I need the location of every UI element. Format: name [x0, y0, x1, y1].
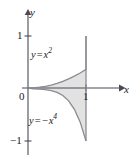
lower-curve-label-equals: =: [34, 115, 42, 126]
figure-container: y x 1 −1 0 1 y=x2 y=−x4: [0, 0, 134, 166]
upper-curve-label: y=x2: [31, 47, 52, 60]
lower-curve-label-base: −x: [42, 115, 54, 126]
upper-curve-label-lhs: y: [31, 49, 36, 60]
y-tick-label-negative-1: −1: [10, 135, 22, 146]
lower-curve-label: y=−x4: [29, 113, 57, 126]
y-axis-label: y: [30, 7, 35, 18]
x-tick-label-1: 1: [83, 91, 89, 102]
origin-label: 0: [19, 91, 25, 102]
y-tick-label-1: 1: [17, 30, 23, 41]
x-axis-label: x: [124, 84, 129, 95]
lower-curve-label-lhs: y: [29, 115, 34, 126]
lower-curve-label-exponent: 4: [53, 112, 57, 121]
upper-curve-label-equals: =: [36, 49, 44, 60]
upper-curve-label-exponent: 2: [48, 46, 52, 55]
